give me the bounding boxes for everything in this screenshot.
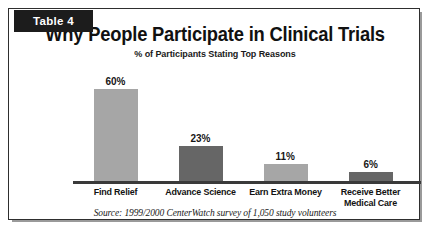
bar-group: 6% xyxy=(328,71,413,181)
plot-area: 60%23%11%6% xyxy=(73,71,413,181)
category-labels: Find ReliefAdvance ScienceEarn Extra Mon… xyxy=(73,186,413,208)
category-label: Advance Science xyxy=(161,186,241,208)
bar-group: 23% xyxy=(158,71,243,181)
bar-value-label: 11% xyxy=(276,150,295,162)
bar-rect xyxy=(94,89,138,181)
table-number-tab: Table 4 xyxy=(14,10,93,32)
bar-value-label: 6% xyxy=(363,158,377,170)
bar-rect xyxy=(179,146,223,181)
table-number-label: Table 4 xyxy=(33,15,74,27)
bar-group: 11% xyxy=(243,71,328,181)
chart-subtitle: % of Participants Stating Top Reasons xyxy=(19,48,410,59)
category-label: Receive BetterMedical Care xyxy=(331,186,411,208)
bar-group: 60% xyxy=(73,71,158,181)
bars-row: 60%23%11%6% xyxy=(73,71,413,181)
bar-value-label: 60% xyxy=(106,75,126,87)
bar-rect xyxy=(349,172,393,181)
category-label: Earn Extra Money xyxy=(246,186,326,208)
bar-value-label: 23% xyxy=(191,132,211,144)
x-axis-line xyxy=(73,181,421,184)
bar-rect xyxy=(264,164,308,181)
category-label: Find Relief xyxy=(76,186,156,208)
chart-frame: Why People Participate in Clinical Trial… xyxy=(8,8,420,220)
source-note: Source: 1999/2000 CenterWatch survey of … xyxy=(9,208,421,218)
